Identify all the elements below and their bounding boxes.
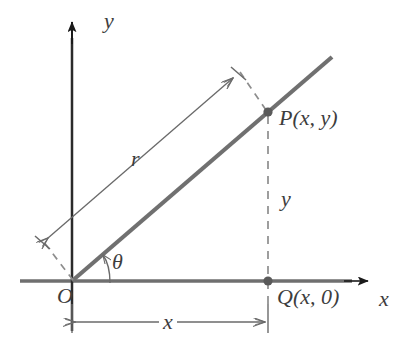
x-axis-label: x: [379, 288, 389, 310]
radius-label: r: [131, 148, 140, 170]
point-p-marker: [263, 107, 272, 116]
radius-dimension-tick-lower: [35, 236, 50, 249]
terminal-ray: [72, 57, 332, 281]
theta-label: θ: [112, 251, 123, 273]
terminal-ray-group: [72, 57, 332, 281]
point-q-label: Q(x, 0): [277, 286, 339, 308]
point-p-label: P(x, y): [279, 107, 338, 129]
radius-dimension-arrow: [48, 78, 233, 238]
y-axis-label: y: [104, 10, 114, 32]
theta-angle-group: [103, 255, 110, 283]
side-x-label: x: [159, 311, 177, 333]
radius-dimension-tick-upper: [231, 67, 246, 80]
polar-coordinates-figure: y x O P(x, y) Q(x, 0) r y x θ: [0, 0, 411, 346]
theta-angle-arrow: [103, 255, 110, 283]
origin-label: O: [57, 285, 73, 307]
side-y-label: y: [281, 188, 291, 210]
point-q-marker: [263, 276, 272, 285]
dashed-lines-group: [43, 72, 268, 304]
